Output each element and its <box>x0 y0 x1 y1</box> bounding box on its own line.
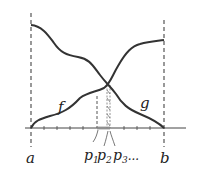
label-p2: p2 <box>97 147 112 165</box>
curve-g-label: g <box>140 94 150 112</box>
label-a: a <box>26 149 35 167</box>
label-b: b <box>160 149 170 167</box>
bisection-diagram: f g a b p1 p2 p3... <box>0 0 197 174</box>
convergence-hatch <box>107 85 110 128</box>
interval-bar <box>97 127 110 130</box>
label-p3: p3... <box>113 147 139 165</box>
label-pointers <box>93 130 115 146</box>
curve-f-label: f <box>57 98 66 116</box>
